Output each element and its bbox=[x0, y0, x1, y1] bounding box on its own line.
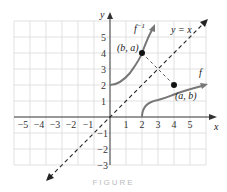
svg-text:4: 4 bbox=[172, 119, 177, 130]
svg-text:−5: −5 bbox=[18, 119, 29, 130]
inverse-function-graph: x y −5 −4 −3 −2 −1 1 2 3 4 5 5 4 3 2 1 −… bbox=[0, 0, 227, 192]
figure-caption: FIGURE bbox=[0, 178, 227, 187]
point-ab-label: (a, b) bbox=[175, 90, 197, 102]
x-axis-label: x bbox=[213, 121, 219, 132]
x-axis-arrow-icon bbox=[209, 114, 217, 120]
point-ab bbox=[171, 82, 177, 88]
svg-text:3: 3 bbox=[101, 64, 106, 75]
svg-text:−4: −4 bbox=[34, 119, 45, 130]
svg-text:−1: −1 bbox=[83, 119, 94, 130]
svg-text:−2: −2 bbox=[97, 144, 108, 155]
curve-f-arrow-icon bbox=[200, 83, 208, 89]
svg-text:5: 5 bbox=[188, 119, 193, 130]
svg-text:1: 1 bbox=[124, 119, 129, 130]
svg-text:−2: −2 bbox=[66, 119, 77, 130]
svg-text:4: 4 bbox=[101, 48, 106, 59]
svg-text:−1: −1 bbox=[97, 128, 108, 139]
svg-text:5: 5 bbox=[101, 32, 106, 43]
svg-text:3: 3 bbox=[156, 119, 161, 130]
svg-text:2: 2 bbox=[101, 80, 106, 91]
line-yx-label: y = x bbox=[170, 24, 192, 35]
svg-text:2: 2 bbox=[140, 119, 145, 130]
svg-text:−3: −3 bbox=[97, 160, 108, 171]
point-ba bbox=[139, 50, 145, 56]
y-axis-label: y bbox=[99, 9, 105, 20]
y-axis-arrow-icon bbox=[107, 12, 113, 19]
curve-f-inverse-label: f−1 bbox=[134, 22, 145, 34]
svg-text:−3: −3 bbox=[50, 119, 61, 130]
curve-f-inverse-arrow-icon bbox=[149, 24, 155, 32]
curve-f-inverse bbox=[110, 30, 152, 85]
point-ba-label: (b, a) bbox=[117, 42, 139, 54]
svg-text:1: 1 bbox=[101, 96, 106, 107]
